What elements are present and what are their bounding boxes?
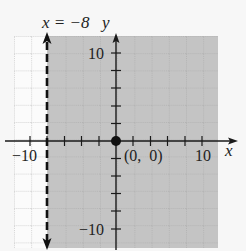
x-axis-label: x bbox=[224, 141, 233, 160]
x-tick-label-10: 10 bbox=[195, 147, 211, 164]
boundary-label: x = −8 bbox=[41, 13, 90, 32]
inequality-graph: x = −8 y x 10 −10 −10 10 (0, 0) bbox=[0, 0, 246, 251]
y-tick-label-neg10: −10 bbox=[79, 221, 104, 238]
x-tick-label-neg10: −10 bbox=[12, 147, 37, 164]
y-axis-label: y bbox=[100, 13, 110, 32]
point-label: (0, 0) bbox=[124, 147, 163, 165]
origin-point bbox=[111, 136, 121, 146]
y-tick-label-10: 10 bbox=[88, 45, 104, 62]
